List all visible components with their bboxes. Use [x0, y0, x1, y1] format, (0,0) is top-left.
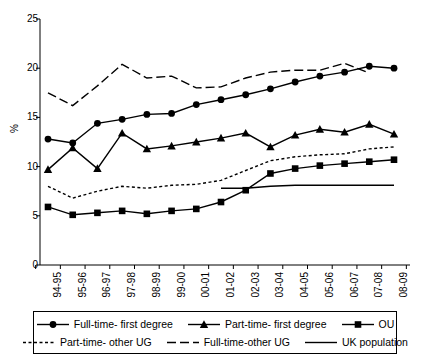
plot-area: % 0510152025 94-9595-9696-9797-9898-9999… [0, 0, 430, 300]
legend-swatch-plain [304, 337, 338, 348]
data-point-marker [390, 130, 398, 138]
x-tick-label: 02-03 [251, 272, 261, 298]
data-point-marker [365, 120, 373, 128]
data-point-marker [341, 69, 348, 76]
legend-label: Full-time-other UG [204, 336, 290, 348]
x-tick-label: 01-02 [226, 272, 236, 298]
data-point-marker [267, 170, 274, 177]
series-line [48, 147, 394, 198]
x-tick-label: 98-99 [152, 272, 162, 298]
legend-swatch-triangle [187, 319, 221, 330]
x-tick-label: 95-96 [78, 272, 88, 298]
data-point-marker [168, 110, 175, 117]
data-point-marker [391, 156, 398, 163]
legend-marker-icon [166, 337, 200, 348]
x-tick-label: 97-98 [127, 272, 137, 298]
series-part-time-other-ug [48, 147, 394, 198]
data-point-marker [119, 116, 126, 123]
series-full-time-other-ug [48, 63, 369, 105]
data-point-marker [316, 73, 323, 80]
data-point-marker [242, 91, 249, 98]
legend-row-bottom: Part-time- other UGFull-time-other UGUK … [38, 333, 392, 351]
legend-swatch-dotted [22, 337, 56, 348]
legend-marker-icon [187, 319, 221, 330]
x-tick-label: 08-09 [399, 272, 409, 298]
x-tick-label: 06-07 [350, 272, 360, 298]
legend-swatch-dashed [166, 337, 200, 348]
legend-item[interactable]: Full-time- first degree [36, 318, 173, 330]
data-point-marker [266, 143, 274, 151]
legend-item[interactable]: UK population [304, 336, 408, 348]
legend-label: Part-time- other UG [60, 336, 152, 348]
chart-legend: Full-time- first degreePart-time- first … [33, 311, 397, 354]
data-point-marker [119, 208, 126, 215]
series-line [48, 63, 369, 105]
data-point-marker [193, 101, 200, 108]
legend-label: Full-time- first degree [74, 318, 173, 330]
legend-marker-icon [36, 319, 70, 330]
data-point-marker [144, 211, 151, 218]
data-point-marker [168, 208, 175, 215]
series-uk-population [221, 185, 394, 188]
x-tick-label: 96-97 [102, 272, 112, 298]
legend-item[interactable]: OU [341, 318, 395, 330]
x-tick-label: 07-08 [374, 272, 384, 298]
x-tick-label: 94-95 [53, 272, 63, 298]
legend-item[interactable]: Part-time- other UG [22, 336, 152, 348]
legend-row-top: Full-time- first degreePart-time- first … [38, 315, 392, 333]
x-tick-label: 00-01 [201, 272, 211, 298]
legend-label: Part-time- first degree [225, 318, 327, 330]
x-tick-label: 99-00 [177, 272, 187, 298]
legend-label: OU [379, 318, 395, 330]
data-point-marker [143, 111, 150, 118]
data-point-marker [292, 165, 299, 172]
legend-label: UK population [342, 336, 408, 348]
data-point-marker [316, 125, 324, 133]
legend-item[interactable]: Part-time- first degree [187, 318, 327, 330]
legend-marker-icon [341, 319, 375, 330]
x-tick-label: 04-05 [300, 272, 310, 298]
data-point-marker [317, 162, 324, 169]
data-point-marker [341, 160, 348, 167]
legend-marker-icon [304, 337, 338, 348]
data-point-marker [118, 129, 126, 137]
data-point-marker [94, 120, 101, 127]
legend-swatch-square [341, 319, 375, 330]
data-point-marker [366, 63, 373, 70]
data-point-marker [193, 206, 200, 213]
data-point-marker [391, 65, 398, 72]
data-point-marker [267, 85, 274, 92]
x-tick-label: 05-06 [325, 272, 335, 298]
series-group [44, 63, 398, 218]
data-point-marker [218, 96, 225, 103]
data-point-marker [218, 199, 225, 206]
data-point-marker [69, 144, 77, 152]
data-point-marker [45, 204, 52, 211]
line-chart-svg [0, 0, 430, 300]
x-tick-label: 03-04 [275, 272, 285, 298]
chart-page: % 0510152025 94-9595-9696-9797-9898-9999… [0, 0, 430, 364]
legend-swatch-circle [36, 319, 70, 330]
data-point-marker [94, 210, 101, 217]
axes-group [36, 19, 410, 269]
series-line [48, 160, 394, 215]
legend-marker-icon [22, 337, 56, 348]
data-point-marker [242, 129, 250, 137]
series-line [221, 185, 394, 188]
data-point-marker [45, 136, 52, 143]
legend-item[interactable]: Full-time-other UG [166, 336, 290, 348]
data-point-marker [292, 79, 299, 86]
data-point-marker [69, 212, 76, 219]
data-point-marker [366, 158, 373, 165]
